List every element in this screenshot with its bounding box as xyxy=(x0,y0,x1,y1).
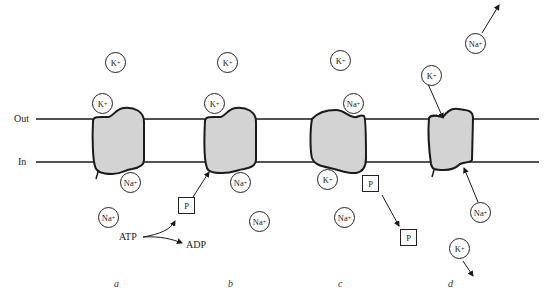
phosphate-box: P xyxy=(362,175,379,192)
k-ion: K+ xyxy=(204,93,225,114)
na-ion: Na+ xyxy=(230,172,251,193)
na-ion: Na+ xyxy=(98,207,119,228)
k-ion: K+ xyxy=(317,169,338,190)
panel-label-d: d xyxy=(448,278,453,289)
k-ion: K+ xyxy=(330,50,351,71)
pump-protein-c xyxy=(311,110,367,173)
na-ion: Na+ xyxy=(334,207,355,228)
na-bind-arrow xyxy=(464,168,478,202)
na-ion: Na+ xyxy=(343,93,364,114)
atp-label: ATP xyxy=(119,231,137,242)
na-ion: Na+ xyxy=(465,33,486,54)
pump-protein-d xyxy=(429,109,473,170)
k-bind-arrow xyxy=(428,84,443,118)
k-release-arrow xyxy=(463,261,473,276)
panel-label-a: a xyxy=(114,278,119,289)
atp-to-adp-arrow xyxy=(143,237,182,243)
out-label: Out xyxy=(14,113,29,124)
panel-label-c: c xyxy=(338,278,342,289)
adp-label: ADP xyxy=(186,239,206,250)
na-ion: Na+ xyxy=(120,172,141,193)
pump-protein-a xyxy=(93,108,144,174)
sodium-potassium-pump-diagram: Out In K+ K+ Na+ Na+ K+ K+ Na+ Na+ P ATP… xyxy=(0,0,551,302)
pump-protein-b xyxy=(204,108,256,173)
na-ion: Na+ xyxy=(470,202,491,223)
panel-label-b: b xyxy=(228,278,233,289)
p-to-pump-arrow xyxy=(193,172,209,197)
phosphate-box-released: P xyxy=(400,229,417,246)
k-ion: K+ xyxy=(217,52,238,73)
na-exit-arrow xyxy=(482,5,499,33)
k-ion: K+ xyxy=(92,93,113,114)
k-ion: K+ xyxy=(421,65,442,86)
p-release-arrow xyxy=(382,195,399,226)
k-ion: K+ xyxy=(105,52,126,73)
in-label: In xyxy=(18,156,26,167)
phosphate-box: P xyxy=(178,197,195,214)
atp-to-p-arrow xyxy=(143,221,175,237)
k-ion: K+ xyxy=(449,238,470,259)
na-ion: Na+ xyxy=(249,211,270,232)
